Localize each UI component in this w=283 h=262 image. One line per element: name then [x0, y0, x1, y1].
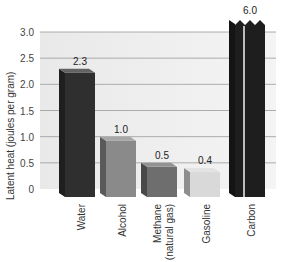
y-tick-label: 3.0 [20, 27, 34, 38]
y-tick-label: 1.0 [20, 132, 34, 143]
x-tick-label: Water [76, 203, 87, 230]
y-axis-ticks: 00.51.01.52.02.53.0 [20, 27, 34, 195]
y-axis-label: Latent heat (joules per gram) [5, 72, 16, 200]
y-tick-label: 0.5 [20, 158, 34, 169]
value-label: 2.3 [73, 56, 87, 67]
x-tick-label: (natural gas) [164, 204, 175, 260]
x-tick-label: Alcohol [117, 204, 128, 237]
x-tick-label: Gasoline [201, 204, 212, 244]
y-tick-label: 2.0 [20, 79, 34, 90]
x-tick-label: Carbon [246, 204, 257, 237]
y-tick-label: 0 [28, 184, 34, 195]
y-tick-label: 1.5 [20, 106, 34, 117]
x-tick-label: Methane [152, 204, 163, 243]
value-label: 1.0 [114, 124, 128, 135]
value-label: 6.0 [243, 5, 257, 16]
x-axis-category-labels: WaterAlcoholMethane(natural gas)Gasoline… [76, 203, 257, 260]
y-tick-label: 2.5 [20, 53, 34, 64]
latent-heat-bar-chart: 00.51.01.52.02.53.0 Latent heat (joules … [0, 0, 283, 262]
bar-water: 2.3 [59, 56, 95, 197]
value-label: 0.5 [155, 150, 169, 161]
value-label: 0.4 [198, 155, 212, 166]
bar-carbon: 6.0 [229, 5, 265, 197]
